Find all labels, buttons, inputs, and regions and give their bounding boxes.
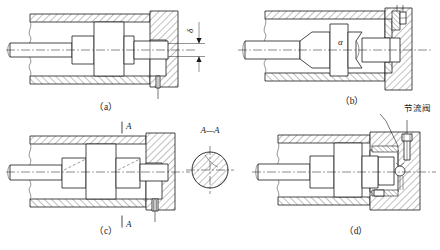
- panel-d-barrel-upper-wall: [278, 135, 370, 143]
- panel-c-piston-rod: [8, 165, 62, 180]
- panel-a-barrel-upper-wall: [30, 14, 150, 22]
- panel-d-barrel-lower-wall: [278, 197, 370, 205]
- panel-a-barrel-lower-wall: [30, 76, 150, 84]
- panel-b-barrel-upper-wall: [265, 11, 385, 19]
- panel-c-barrel-upper-wall: [30, 136, 146, 144]
- panel-b-barrel-lower-wall: [265, 73, 385, 81]
- throttle-valve-label: 节流阀: [404, 103, 431, 113]
- panel-a-caption: （a）: [94, 101, 118, 112]
- canvas-background: [0, 0, 440, 250]
- panel-d-caption: （d）: [344, 225, 369, 236]
- panel-b-caption: （b）: [340, 95, 365, 106]
- section-a-a-label: A—A: [200, 125, 221, 135]
- panel-c-caption: （c）: [94, 225, 118, 236]
- figure-canvas: δ （a）: [0, 0, 440, 250]
- panel-c-barrel-lower-wall: [30, 199, 146, 207]
- engineering-drawing-figure: δ （a）: [0, 0, 440, 250]
- section-mark-bottom-label: A: [125, 219, 132, 229]
- section-mark-top-label: A: [125, 121, 132, 131]
- cone-angle-label: α: [338, 37, 343, 47]
